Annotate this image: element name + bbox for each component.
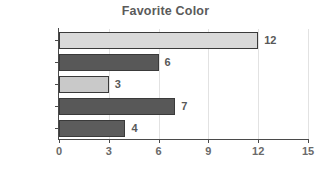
y-tick-mark <box>55 84 59 85</box>
bar-value-label: 4 <box>131 122 137 134</box>
bar-purple[interactable] <box>59 54 159 71</box>
x-tick-mark <box>208 139 209 143</box>
x-tick-label: 12 <box>246 145 270 157</box>
x-tick-mark <box>59 139 60 143</box>
y-tick-mark <box>55 128 59 129</box>
x-tick-mark <box>159 139 160 143</box>
x-tick-label: 6 <box>147 145 171 157</box>
x-tick-mark <box>109 139 110 143</box>
bar-blue[interactable] <box>59 120 125 137</box>
bar-chart: Favorite Color 03691215 126374 CyanPurpl… <box>0 0 331 179</box>
bar-row[interactable]: 3 <box>59 76 308 93</box>
bar-row[interactable]: 4 <box>59 120 308 137</box>
x-tick-mark <box>258 139 259 143</box>
y-tick-mark <box>55 62 59 63</box>
bar-value-label: 7 <box>181 100 187 112</box>
bar-row[interactable]: 12 <box>59 32 308 49</box>
y-tick-mark <box>55 106 59 107</box>
bar-green[interactable] <box>59 76 109 93</box>
x-tick-label: 15 <box>296 145 320 157</box>
bar-value-label: 6 <box>165 56 171 68</box>
gridline <box>308 29 309 139</box>
bar-value-label: 3 <box>115 78 121 90</box>
bar-row[interactable]: 7 <box>59 98 308 115</box>
bar-cyan[interactable] <box>59 32 258 49</box>
x-axis-line <box>58 139 309 140</box>
x-tick-label: 0 <box>47 145 71 157</box>
bar-row[interactable]: 6 <box>59 54 308 71</box>
bar-value-label: 12 <box>264 34 276 46</box>
x-tick-label: 9 <box>196 145 220 157</box>
x-tick-mark <box>308 139 309 143</box>
y-tick-mark <box>55 40 59 41</box>
x-tick-label: 3 <box>97 145 121 157</box>
chart-title: Favorite Color <box>0 4 331 18</box>
bar-red[interactable] <box>59 98 175 115</box>
